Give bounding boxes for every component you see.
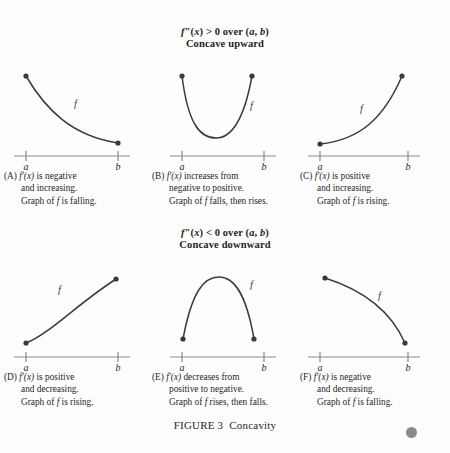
panel-d-math: f′(x) — [19, 372, 34, 382]
axis-label-e-right: b — [262, 362, 267, 371]
curve-c-endpoint-right — [399, 73, 404, 78]
panel-f-line3-post: is falling. — [355, 397, 392, 407]
panel-f: a b f (F) f′(x) is negative and decreasi… — [298, 263, 448, 408]
axis-label-e-left: a — [180, 362, 185, 371]
panel-e-tag: (E) — [152, 372, 164, 382]
panel-c-tag: (C) — [300, 171, 312, 181]
panel-c-math: f′(x) — [315, 171, 330, 181]
panel-b-svg: a b f — [150, 62, 300, 170]
curve-f-endpoint-left — [322, 275, 327, 280]
panel-c-caption: (C) f′(x) is positive and increasing. Gr… — [300, 170, 446, 207]
panel-d-plot: a b f — [2, 263, 152, 371]
curve-f — [325, 278, 405, 343]
curve-e — [183, 277, 254, 339]
panel-c-line2: and increasing. — [300, 182, 446, 194]
panel-a-line1: is negative — [34, 171, 76, 181]
panel-f-line3-pre: Graph of — [317, 397, 353, 407]
panel-b-plot: a b f — [150, 62, 300, 170]
axis-label-f-right: b — [406, 362, 411, 371]
panel-a: a b f (A) f′(x) is negative and increasi… — [2, 62, 152, 207]
section-condition-concave-downward: f″(x) < 0 over (a, b) — [0, 227, 450, 239]
axis-label-c-right: b — [406, 161, 411, 170]
figure-title: Concavity — [229, 419, 276, 431]
panel-e-svg: a b f — [150, 263, 300, 371]
panel-c-line3-pre: Graph of — [317, 196, 353, 206]
section-name-concave-downward: Concave downward — [0, 239, 450, 251]
curve-e-endpoint-right — [251, 336, 256, 341]
panel-d: a b f (D) f′(x) is positive and decreasi… — [2, 263, 152, 408]
curve-a-endpoint-left — [23, 73, 28, 78]
panel-f-math: f′(x) — [314, 372, 329, 382]
panel-d-caption: (D) f′(x) is positive and decreasing. Gr… — [4, 371, 150, 408]
curve-e-endpoint-left — [180, 336, 185, 341]
axis-label-b-right: b — [262, 161, 267, 170]
section-header-concave-downward: f″(x) < 0 over (a, b) Concave downward — [0, 227, 450, 252]
panel-c-svg: a b f — [298, 62, 448, 170]
panel-e: a b f (E) f′(x) decreases from positive … — [150, 263, 300, 408]
axis-label-d-left: a — [24, 362, 29, 371]
panel-b-caption: (B) f′(x) increases from negative to pos… — [152, 170, 298, 207]
curve-b-endpoint-right — [249, 73, 254, 78]
curve-a-endpoint-right — [115, 140, 120, 145]
panel-a-line3-pre: Graph of — [21, 196, 57, 206]
curve-a — [26, 76, 118, 143]
panel-a-caption: (A) f′(x) is negative and increasing. Gr… — [4, 170, 150, 207]
panel-a-math: f′(x) — [19, 171, 34, 181]
panel-e-caption: (E) f′(x) decreases from positive to neg… — [152, 371, 298, 408]
section-name-concave-upward: Concave upward — [0, 38, 450, 50]
curve-f-endpoint-right — [402, 340, 407, 345]
section-header-concave-upward: f″(x) > 0 over (a, b) Concave upward — [0, 26, 450, 51]
axis-label-d-right: b — [116, 362, 121, 371]
panel-e-line3-post: rises, then falls. — [207, 397, 268, 407]
panel-d-line2: and decreasing. — [4, 383, 150, 395]
axis-label-a-right: b — [116, 161, 121, 170]
panel-c-line1: is positive — [330, 171, 370, 181]
corner-decoration-dot — [406, 427, 417, 438]
panel-f-plot: a b f — [298, 263, 448, 371]
curve-c-endpoint-left — [317, 141, 322, 146]
curve-b-endpoint-left — [179, 73, 184, 78]
panel-e-math: f′(x) — [166, 372, 181, 382]
panel-f-line1: is negative — [329, 372, 371, 382]
panel-e-plot: a b f — [150, 263, 300, 371]
axis-label-a-left: a — [24, 161, 29, 170]
curve-label-f: f — [378, 290, 383, 301]
panel-a-plot: a b f — [2, 62, 152, 170]
curve-b — [182, 76, 252, 138]
curve-d-endpoint-left — [23, 340, 28, 345]
panel-b: a b f (B) f′(x) increases from negative … — [150, 62, 300, 207]
curve-label-c: f — [360, 103, 365, 114]
panel-a-line3-post: is falling. — [59, 196, 96, 206]
axis-label-b-left: a — [180, 161, 185, 170]
axis-label-f-left: a — [318, 362, 323, 371]
panel-b-tag: (B) — [152, 171, 164, 181]
panel-c-plot: a b f — [298, 62, 448, 170]
axis-label-c-left: a — [318, 161, 323, 170]
panel-c-line3-post: is rising. — [355, 196, 389, 206]
panel-b-line1: increases from — [182, 171, 239, 181]
figure-number: FIGURE 3 — [174, 419, 224, 431]
panel-f-tag: (F) — [300, 372, 311, 382]
panel-d-line1: is positive — [34, 372, 74, 382]
curve-d — [26, 279, 116, 343]
section-condition-concave-upward: f″(x) > 0 over (a, b) — [0, 26, 450, 38]
panel-d-line3-post: is rising. — [59, 397, 93, 407]
panel-d-svg: a b f — [2, 263, 152, 371]
panel-d-line3-pre: Graph of — [21, 397, 57, 407]
curve-d-endpoint-right — [113, 276, 118, 281]
panel-d-tag: (D) — [4, 372, 17, 382]
curve-label-d: f — [58, 284, 63, 295]
panel-f-caption: (F) f′(x) is negative and decreasing. Gr… — [300, 371, 446, 408]
panel-a-line2: and increasing. — [4, 182, 150, 194]
figure-caption: FIGURE 3Concavity — [0, 419, 450, 431]
curve-label-a: f — [74, 98, 79, 109]
panel-e-line3-pre: Graph of — [169, 397, 205, 407]
panel-c: a b f (C) f′(x) is positive and increasi… — [298, 62, 448, 207]
panel-b-math: f′(x) — [167, 171, 182, 181]
panel-a-tag: (A) — [4, 171, 17, 181]
panel-a-svg: a b f — [2, 62, 152, 170]
concavity-figure: f″(x) > 0 over (a, b) Concave upward a b… — [0, 0, 450, 453]
panel-e-line1: decreases from — [181, 372, 239, 382]
panel-f-line2: and decreasing. — [300, 383, 446, 395]
panel-f-svg: a b f — [298, 263, 448, 371]
